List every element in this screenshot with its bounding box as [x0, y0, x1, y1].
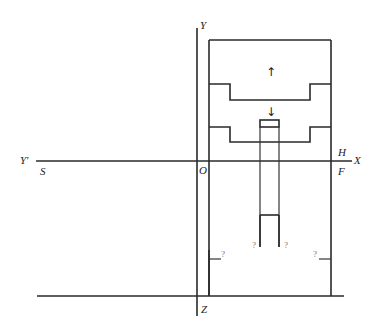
upper-step-profile — [209, 84, 331, 100]
label-h: H — [337, 146, 347, 158]
unknown-mark-left: ? — [221, 249, 225, 259]
label-o: O — [199, 164, 207, 176]
label-y-prime: Y' — [20, 154, 29, 166]
label-y: Y — [200, 19, 208, 31]
label-x: X — [353, 154, 362, 166]
unknown-mark-right: ? — [313, 249, 317, 259]
lower-step-profile — [209, 127, 331, 142]
arrow-up-icon: ↑ — [266, 65, 276, 79]
arrow-down-icon: ↓ — [266, 105, 276, 119]
label-s: S — [40, 165, 46, 177]
small-slot-rect — [260, 120, 279, 127]
label-z: Z — [201, 303, 208, 315]
projection-diagram: ↑ ↓ Y Y' X H S O F Z ? ? ? ? — [0, 0, 381, 333]
unknown-mark-slot-left: ? — [252, 240, 256, 250]
unknown-mark-slot-right: ? — [284, 240, 288, 250]
label-f: F — [337, 165, 345, 177]
